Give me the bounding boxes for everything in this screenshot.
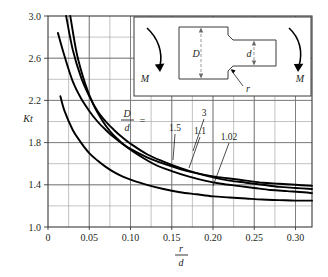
x-tick-label: 0 [46,232,51,243]
y-axis-title: Kt [22,113,33,124]
inset-label-moment-right: M [295,73,305,84]
inset-label-moment-left: M [140,73,150,84]
curve-family-equals: = [139,115,146,126]
curve-family-numerator: D [122,108,131,119]
y-axis-title-text: Kt [22,113,33,124]
y-tick-label: 1.4 [29,179,42,190]
x-tick-label: 0.25 [246,232,264,243]
stress-concentration-chart: D d r M M 31.51.11.02 D [0,0,328,277]
y-tick-label: 2.2 [29,95,42,106]
inset-diagram: D d r M M [134,17,311,96]
inset-label-D: D [191,48,200,59]
curve-label: 1.02 [221,132,238,142]
curve-label: 3 [202,108,207,118]
x-tick-label: 0.05 [81,232,99,243]
y-tick-label: 2.6 [29,53,42,64]
x-tick-label: 0.30 [287,232,305,243]
curve-label: 1.5 [169,123,181,133]
x-tick-label: 0.10 [122,232,140,243]
x-tick-label: 0.15 [163,232,181,243]
y-tick-label: 3.0 [29,11,42,22]
y-tick-label: 1.0 [29,222,42,233]
x-tick-label: 0.20 [204,232,222,243]
y-tick-label: 1.8 [29,137,42,148]
curve-label: 1.1 [194,126,206,136]
inset-label-r: r [246,83,250,94]
x-axis-title-numerator: r [179,243,183,254]
